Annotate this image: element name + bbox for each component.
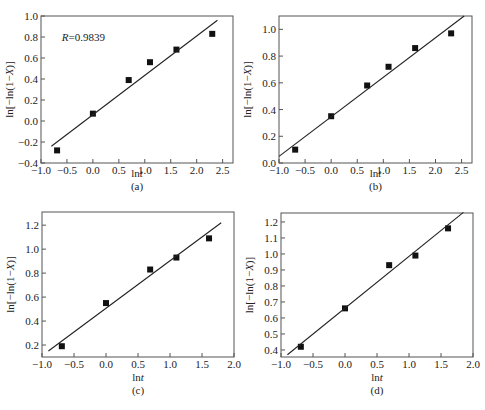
y-tick-label: 0.2 bbox=[24, 94, 38, 106]
figure-canvas: −1.0−0.50.00.51.01.52.02.5−0.4−0.20.00.2… bbox=[0, 0, 485, 410]
x-tick-label: 2.0 bbox=[227, 358, 241, 370]
y-tick-label: 0.5 bbox=[264, 328, 278, 340]
x-tick-label: 1.0 bbox=[163, 358, 177, 370]
y-tick-label: 0.6 bbox=[264, 312, 278, 324]
panel-caption: (d) bbox=[371, 384, 384, 397]
y-axis-label: ln[−ln(1−X)] bbox=[243, 257, 256, 313]
y-tick-label: 0.0 bbox=[24, 115, 38, 127]
x-tick-label: 0.5 bbox=[370, 358, 384, 370]
y-axis-label: ln[−ln(1−X)] bbox=[4, 256, 17, 312]
x-tick-label: −1.0 bbox=[271, 358, 291, 370]
y-tick-label: 0.6 bbox=[25, 291, 39, 303]
y-tick-label: 0.7 bbox=[264, 296, 278, 308]
x-axis-label: lnt bbox=[132, 371, 145, 383]
y-tick-label: 1.2 bbox=[25, 219, 39, 231]
x-tick-label: 2.0 bbox=[190, 164, 204, 176]
x-tick-label: 0.5 bbox=[131, 358, 145, 370]
y-tick-label: 0.0 bbox=[262, 157, 276, 169]
x-tick-label: 2.5 bbox=[455, 164, 469, 176]
y-axis-label: ln[−ln(1−X)] bbox=[241, 61, 254, 117]
y-tick-label: 0.4 bbox=[264, 344, 278, 356]
r-value-annotation: R=0.9839 bbox=[61, 31, 106, 43]
x-tick-label: 1.5 bbox=[403, 164, 417, 176]
data-point bbox=[412, 45, 418, 51]
x-tick-label: −1.0 bbox=[32, 358, 52, 370]
x-tick-label: 0.0 bbox=[338, 358, 352, 370]
data-point bbox=[386, 64, 392, 70]
x-tick-label: 0.5 bbox=[350, 164, 364, 176]
panel-caption: (b) bbox=[369, 180, 382, 193]
x-tick-label: 2.5 bbox=[216, 164, 230, 176]
data-point bbox=[126, 77, 132, 83]
data-point bbox=[292, 147, 298, 153]
x-tick-label: 2.0 bbox=[466, 358, 480, 370]
y-tick-label: 1.2 bbox=[264, 216, 278, 228]
x-tick-label: 0.0 bbox=[324, 164, 338, 176]
plot-frame bbox=[281, 213, 473, 357]
y-tick-label: 0.8 bbox=[262, 50, 276, 62]
chart-panel-d: −1.0−0.50.00.51.01.52.00.40.50.60.70.80.… bbox=[243, 212, 480, 397]
x-tick-label: −0.5 bbox=[57, 164, 77, 176]
chart-panel-c: −1.0−0.50.00.51.01.52.00.20.40.60.81.01.… bbox=[4, 212, 241, 397]
data-point bbox=[147, 59, 153, 65]
fit-line bbox=[287, 212, 463, 354]
y-tick-label: 0.4 bbox=[24, 73, 38, 85]
data-point bbox=[386, 262, 392, 268]
x-tick-label: 0.5 bbox=[112, 164, 126, 176]
x-axis-label: lnt bbox=[131, 167, 144, 179]
data-point bbox=[448, 30, 454, 36]
y-tick-label: 0.4 bbox=[262, 104, 276, 116]
x-axis-label: lnt bbox=[371, 371, 384, 383]
x-tick-label: 1.5 bbox=[195, 358, 209, 370]
chart-panel-b: −1.0−0.50.00.51.01.52.02.50.00.20.40.60.… bbox=[241, 16, 472, 193]
data-point bbox=[103, 300, 109, 306]
y-tick-label: 0.6 bbox=[24, 52, 38, 64]
x-tick-label: 0.0 bbox=[99, 358, 113, 370]
x-tick-label: 1.0 bbox=[402, 358, 416, 370]
x-tick-label: 1.5 bbox=[434, 358, 448, 370]
fit-line bbox=[279, 16, 464, 156]
y-axis-label: ln[−ln(1−X)] bbox=[3, 61, 16, 117]
data-point bbox=[209, 31, 215, 37]
data-point bbox=[59, 343, 65, 349]
x-tick-label: −0.5 bbox=[64, 358, 84, 370]
y-tick-label: 1.1 bbox=[264, 232, 278, 244]
y-tick-label: −0.2 bbox=[18, 136, 38, 148]
y-tick-label: 0.8 bbox=[264, 280, 278, 292]
x-tick-label: 2.0 bbox=[429, 164, 443, 176]
y-tick-label: 0.8 bbox=[24, 31, 38, 43]
plot-frame bbox=[279, 16, 472, 163]
panel-caption: (c) bbox=[132, 384, 145, 397]
y-tick-label: 1.0 bbox=[264, 248, 278, 260]
y-tick-label: 0.8 bbox=[25, 267, 39, 279]
y-tick-label: 0.2 bbox=[25, 339, 39, 351]
y-tick-label: −0.4 bbox=[18, 157, 38, 169]
data-point bbox=[298, 344, 304, 350]
panel-caption: (a) bbox=[131, 180, 144, 193]
y-tick-label: 1.0 bbox=[24, 10, 38, 22]
data-point bbox=[54, 147, 60, 153]
y-tick-label: 0.6 bbox=[262, 77, 276, 89]
y-tick-label: 0.9 bbox=[264, 264, 278, 276]
chart-panel-a: −1.0−0.50.00.51.01.52.02.5−0.4−0.20.00.2… bbox=[3, 10, 233, 193]
x-axis-label: lnt bbox=[370, 167, 383, 179]
x-tick-label: −0.5 bbox=[295, 164, 315, 176]
y-tick-label: 1.0 bbox=[262, 23, 276, 35]
y-tick-label: 1.0 bbox=[25, 243, 39, 255]
x-tick-label: 1.5 bbox=[164, 164, 178, 176]
y-tick-label: 0.2 bbox=[262, 130, 276, 142]
y-tick-label: 0.4 bbox=[25, 315, 39, 327]
data-point bbox=[206, 235, 212, 241]
data-point bbox=[147, 267, 153, 273]
x-tick-label: −0.5 bbox=[303, 358, 323, 370]
x-tick-label: 0.0 bbox=[86, 164, 100, 176]
fit-line bbox=[48, 223, 221, 351]
